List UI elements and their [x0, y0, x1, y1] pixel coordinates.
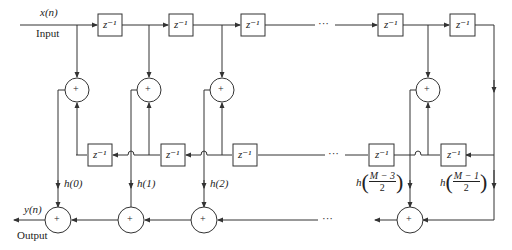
coef-h1: h(1) [137, 177, 155, 189]
delay-label: z⁻¹ [174, 18, 187, 31]
delay-label: z⁻¹ [447, 148, 460, 161]
adder-plus: + [127, 213, 133, 224]
adder-plus: + [218, 83, 224, 94]
adder-plus: + [200, 213, 206, 224]
ellipsis: ··· [322, 212, 333, 224]
delay-label: z⁻¹ [166, 148, 179, 161]
adder-plus: + [424, 83, 430, 94]
ellipsis: ··· [318, 17, 329, 29]
ellipsis: ··· [328, 147, 339, 159]
delay-label: z⁻¹ [93, 148, 106, 161]
adder-plus: + [73, 83, 79, 94]
delay-label: z⁻¹ [246, 18, 259, 31]
output-signal-label: y(n) [24, 203, 42, 215]
coef-h0: h(0) [64, 177, 82, 189]
coef-h2: h(2) [210, 177, 228, 189]
adder-plus: + [145, 83, 151, 94]
delay-label: z⁻¹ [103, 18, 116, 31]
delay-label: z⁻¹ [456, 18, 469, 31]
input-label: Input [36, 27, 59, 39]
delay-label: z⁻¹ [238, 148, 251, 161]
output-label: Output [17, 229, 48, 241]
coef-h-m1: h ( M − 1 2 ) [440, 170, 487, 193]
adder-plus: + [54, 213, 60, 224]
delay-label: z⁻¹ [384, 18, 397, 31]
input-signal-label: x(n) [40, 6, 58, 18]
adder-plus: + [406, 213, 412, 224]
delay-label: z⁻¹ [375, 148, 388, 161]
labels-layer: x(n) Input y(n) Output z⁻¹ z⁻¹ z⁻¹ z⁻¹ z… [0, 0, 512, 250]
coef-h-m3: h ( M − 3 2 ) [356, 170, 403, 193]
